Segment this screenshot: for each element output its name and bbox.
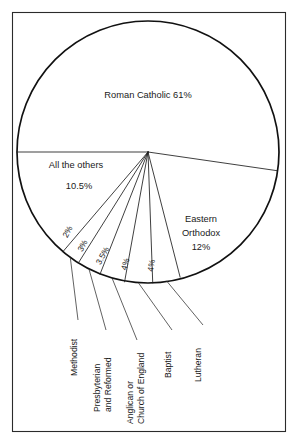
callout-label-presbyterian-line1: Presbyterian <box>92 364 102 412</box>
slice-label-all-the-others: All the others <box>49 160 104 170</box>
callout-label-anglican-line2: Church of England <box>136 353 146 424</box>
slice-label-all-the-others-percent: 10.5% <box>66 181 92 191</box>
slice-label-eastern-orthodox-line1: Eastern <box>185 214 217 224</box>
callout-label-methodist: Methodist <box>69 338 79 376</box>
callout-label-presbyterian-line2: and Reformed <box>103 357 113 412</box>
chart-svg: Roman Catholic 61% All the others 10.5% … <box>0 0 297 448</box>
callout-label-baptist: Baptist <box>163 351 173 378</box>
callout-label-lutheran: Lutheran <box>193 348 203 382</box>
slice-label-roman-catholic: Roman Catholic 61% <box>104 90 191 100</box>
pie-chart-figure: Roman Catholic 61% All the others 10.5% … <box>0 0 297 448</box>
slice-label-eastern-orthodox-percent: 12% <box>192 242 211 252</box>
callout-label-anglican-line1: Anglican or <box>125 381 135 424</box>
slice-label-eastern-orthodox-line2: Orthodox <box>182 228 221 238</box>
